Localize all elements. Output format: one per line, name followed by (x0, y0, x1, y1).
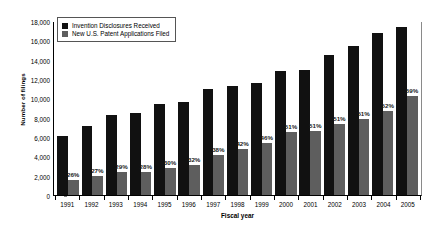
y-tick-label: 16,000 (14, 38, 50, 45)
bar-patent-applications: 51% (359, 119, 370, 195)
x-tick-mark (274, 196, 275, 200)
x-tick-mark (420, 196, 421, 200)
bar-percentage-label: 28% (140, 163, 152, 170)
bar-percentage-label: 51% (333, 115, 345, 122)
legend-swatch-icon-gray (62, 31, 68, 37)
bar-percentage-label: 51% (309, 122, 321, 129)
bar-percentage-label: 29% (115, 163, 127, 170)
x-tick-label: 1999 (250, 201, 274, 208)
bar-invention-disclosures (299, 70, 310, 195)
bar-invention-disclosures (372, 33, 383, 195)
y-tick-label: 18,000 (14, 19, 50, 26)
bar-percentage-label: 52% (382, 102, 394, 109)
x-tick-mark (298, 196, 299, 200)
bar-percentage-label: 59% (406, 87, 418, 94)
x-tick-label: 1995 (152, 201, 176, 208)
legend-item-patent-applications: New U.S. Patent Applications Filed (62, 30, 169, 37)
bar-invention-disclosures (324, 55, 335, 195)
bar-group: 42% (225, 22, 249, 195)
bar-group: 28% (129, 22, 153, 195)
x-tick-label: 2005 (396, 201, 420, 208)
x-tick-mark (128, 196, 129, 200)
y-axis-tick-labels: 02,0004,0006,0008,00010,00012,00014,0001… (14, 22, 50, 196)
bar-invention-disclosures (106, 115, 117, 195)
x-tick-mark (250, 196, 251, 200)
bar-group: 26% (56, 22, 80, 195)
legend-swatch-icon-dark (62, 23, 68, 29)
bar-percentage-label: 32% (188, 156, 200, 163)
bar-invention-disclosures (275, 71, 286, 195)
x-tick-mark (79, 196, 80, 200)
x-tick-mark (152, 196, 153, 200)
x-tick-label: 1996 (177, 201, 201, 208)
bar-percentage-label: 51% (285, 123, 297, 130)
bar-invention-disclosures (82, 126, 93, 195)
bar-group: 52% (371, 22, 395, 195)
bar-patent-applications: 32% (189, 165, 200, 195)
bar-patent-applications: 38% (213, 155, 224, 195)
bar-invention-disclosures (348, 46, 359, 195)
bar-group: 51% (346, 22, 370, 195)
y-tick-label: 6,000 (14, 135, 50, 142)
x-tick-label: 1997 (201, 201, 225, 208)
bar-invention-disclosures (57, 136, 68, 195)
x-tick-mark (371, 196, 372, 200)
bar-groups: 26%27%29%28%30%32%38%42%46%51%51%51%51%5… (54, 22, 421, 195)
x-tick-mark (347, 196, 348, 200)
bar-chart-figure: Number of filings 02,0004,0006,0008,0001… (0, 0, 434, 231)
x-tick-mark (55, 196, 56, 200)
bar-invention-disclosures (154, 104, 165, 195)
bar-percentage-label: 38% (212, 146, 224, 153)
legend-item-invention-disclosures: Invention Disclosures Received (62, 22, 169, 29)
bar-group: 29% (104, 22, 128, 195)
bar-group: 59% (395, 22, 419, 195)
x-tick-label: 1993 (104, 201, 128, 208)
bar-patent-applications: 46% (262, 143, 273, 195)
bar-patent-applications: 29% (117, 172, 128, 195)
x-tick-label: 2004 (371, 201, 395, 208)
bar-group: 32% (177, 22, 201, 195)
bar-patent-applications: 30% (165, 168, 176, 195)
y-tick-label: 8,000 (14, 115, 50, 122)
bar-percentage-label: 46% (261, 134, 273, 141)
bar-invention-disclosures (130, 113, 141, 195)
x-tick-label: 1991 (55, 201, 79, 208)
bar-group: 30% (153, 22, 177, 195)
bar-patent-applications: 51% (310, 131, 321, 195)
bar-patent-applications: 28% (141, 172, 152, 195)
x-tick-label: 1998 (225, 201, 249, 208)
bar-patent-applications: 51% (286, 132, 297, 195)
bar-invention-disclosures (396, 27, 407, 195)
bar-patent-applications: 51% (334, 124, 345, 195)
plot-area: 26%27%29%28%30%32%38%42%46%51%51%51%51%5… (53, 22, 422, 196)
bar-percentage-label: 27% (91, 167, 103, 174)
bar-patent-applications: 26% (68, 180, 79, 195)
bar-patent-applications: 27% (92, 176, 103, 195)
bar-percentage-label: 51% (357, 110, 369, 117)
legend-label: Invention Disclosures Received (72, 22, 160, 29)
x-tick-mark (104, 196, 105, 200)
y-tick-label: 10,000 (14, 96, 50, 103)
x-tick-label: 2002 (323, 201, 347, 208)
x-tick-label: 2003 (347, 201, 371, 208)
x-tick-mark (177, 196, 178, 200)
legend-label: New U.S. Patent Applications Filed (72, 30, 169, 37)
bar-patent-applications: 52% (383, 111, 394, 195)
bar-group: 51% (274, 22, 298, 195)
y-tick-label: 14,000 (14, 57, 50, 64)
bar-group: 46% (250, 22, 274, 195)
x-tick-label: 1992 (79, 201, 103, 208)
x-tick-label: 2001 (298, 201, 322, 208)
chart-legend: Invention Disclosures Received New U.S. … (57, 17, 176, 42)
bar-patent-applications: 42% (238, 149, 249, 195)
y-tick-label: 0 (14, 193, 50, 200)
x-tick-mark (225, 196, 226, 200)
x-tick-mark (323, 196, 324, 200)
y-tick-label: 12,000 (14, 77, 50, 84)
bar-percentage-label: 30% (164, 159, 176, 166)
bar-group: 51% (298, 22, 322, 195)
x-tick-label: 1994 (128, 201, 152, 208)
bar-patent-applications: 59% (407, 96, 418, 195)
x-tick-mark (396, 196, 397, 200)
y-tick-label: 4,000 (14, 154, 50, 161)
